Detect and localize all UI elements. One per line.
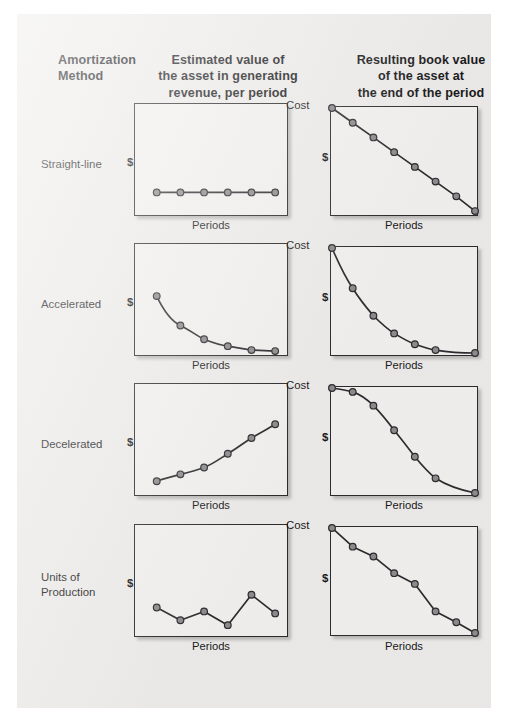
data-point — [272, 610, 279, 617]
row-label-decelerated-line1: Decelerated — [41, 437, 102, 452]
data-point — [370, 553, 377, 560]
units-of-production-book-value-chart — [330, 526, 478, 636]
column-header-method-line1: Amortization — [58, 52, 136, 68]
data-point — [224, 343, 231, 350]
column-header-method: Amortization Method — [58, 52, 136, 85]
y-axis-label-r3c1: $ — [127, 436, 133, 448]
row-label-straight-line-line1: Straight-line — [41, 157, 102, 172]
y-axis-label-r3c2: $ — [322, 431, 328, 443]
data-point — [370, 134, 377, 141]
decelerated-book-value-plot — [331, 387, 477, 495]
y-axis-top-label-r3c2: Cost — [286, 379, 309, 391]
data-point — [177, 617, 184, 624]
data-point — [472, 350, 479, 357]
figure-panel: Amortization Method Estimated value of t… — [17, 14, 491, 708]
data-point — [432, 347, 439, 354]
x-axis-label-r3c2: Periods — [330, 499, 478, 511]
y-axis-label-r4c2: $ — [322, 572, 328, 584]
data-point — [177, 471, 184, 478]
data-point — [201, 336, 208, 343]
data-line — [157, 595, 275, 625]
row-label-accelerated: Accelerated — [41, 297, 101, 312]
data-point — [432, 608, 439, 615]
data-point — [153, 604, 160, 611]
data-point — [411, 341, 418, 348]
x-axis-label-r3c1: Periods — [134, 499, 288, 511]
decelerated-book-value-chart — [330, 386, 478, 496]
row-label-units-of-production-line2: Production — [41, 585, 95, 600]
data-point — [201, 608, 208, 615]
data-point — [272, 348, 279, 355]
data-line — [332, 248, 475, 353]
row-label-decelerated: Decelerated — [41, 437, 102, 452]
data-point — [370, 402, 377, 409]
data-point — [329, 245, 336, 252]
data-point — [472, 630, 479, 637]
data-point — [201, 464, 208, 471]
data-point — [349, 285, 356, 292]
accelerated-book-value-plot — [331, 247, 477, 355]
data-point — [411, 453, 418, 460]
data-point — [224, 189, 231, 196]
data-point — [329, 105, 336, 112]
y-axis-top-label-r2c2: Cost — [286, 239, 309, 251]
data-line — [157, 424, 275, 481]
data-point — [391, 149, 398, 156]
data-point — [248, 435, 255, 442]
data-point — [411, 581, 418, 588]
data-point — [472, 208, 479, 215]
accelerated-expense-chart — [134, 243, 288, 356]
data-point — [248, 591, 255, 598]
straight-line-book-value-plot — [331, 107, 477, 215]
column-header-estimated-value-line3: revenue, per period — [151, 85, 305, 101]
data-point — [329, 525, 336, 532]
data-point — [224, 450, 231, 457]
column-header-estimated-value-line1: Estimated value of — [151, 52, 305, 68]
x-axis-label-r1c2: Periods — [330, 219, 478, 231]
column-header-estimated-value-line2: the asset in generating — [151, 68, 305, 84]
column-header-estimated-value: Estimated value of the asset in generati… — [151, 52, 305, 101]
data-point — [349, 389, 356, 396]
units-of-production-expense-chart — [134, 524, 288, 637]
x-axis-label-r2c2: Periods — [330, 359, 478, 371]
column-header-method-line2: Method — [58, 68, 136, 84]
data-point — [453, 619, 460, 626]
data-point — [391, 330, 398, 337]
units-of-production-book-value-plot — [331, 527, 477, 635]
straight-line-book-value-chart — [330, 106, 478, 216]
y-axis-top-label-r4c2: Cost — [286, 519, 309, 531]
y-axis-label-r1c2: $ — [322, 151, 328, 163]
column-header-book-value: Resulting book value of the asset at the… — [347, 52, 495, 101]
data-point — [248, 347, 255, 354]
y-axis-label-r2c2: $ — [322, 291, 328, 303]
x-axis-label-r4c2: Periods — [330, 640, 478, 652]
data-point — [349, 119, 356, 126]
units-of-production-expense-plot — [135, 525, 287, 636]
y-axis-label-r2c1: $ — [127, 296, 133, 308]
data-point — [201, 189, 208, 196]
row-label-straight-line: Straight-line — [41, 157, 102, 172]
data-point — [329, 385, 336, 392]
y-axis-label-r1c1: $ — [127, 156, 133, 168]
data-point — [224, 622, 231, 629]
data-point — [453, 193, 460, 200]
accelerated-book-value-chart — [330, 246, 478, 356]
x-axis-label-r4c1: Periods — [134, 640, 288, 652]
straight-line-expense-chart — [134, 103, 288, 216]
decelerated-expense-chart — [134, 383, 288, 496]
data-line — [332, 388, 475, 493]
data-point — [177, 189, 184, 196]
y-axis-top-label-r1c2: Cost — [286, 99, 309, 111]
column-header-book-value-line3: the end of the period — [347, 85, 495, 101]
data-point — [349, 543, 356, 550]
data-point — [391, 427, 398, 434]
data-point — [248, 189, 255, 196]
column-header-book-value-line1: Resulting book value — [347, 52, 495, 68]
data-point — [153, 189, 160, 196]
y-axis-label-r4c1: $ — [127, 577, 133, 589]
row-label-units-of-production-line1: Units of — [41, 570, 95, 585]
x-axis-label-r2c1: Periods — [134, 359, 288, 371]
row-label-units-of-production: Units of Production — [41, 570, 95, 599]
x-axis-label-r1c1: Periods — [134, 219, 288, 231]
straight-line-expense-plot — [135, 104, 287, 215]
